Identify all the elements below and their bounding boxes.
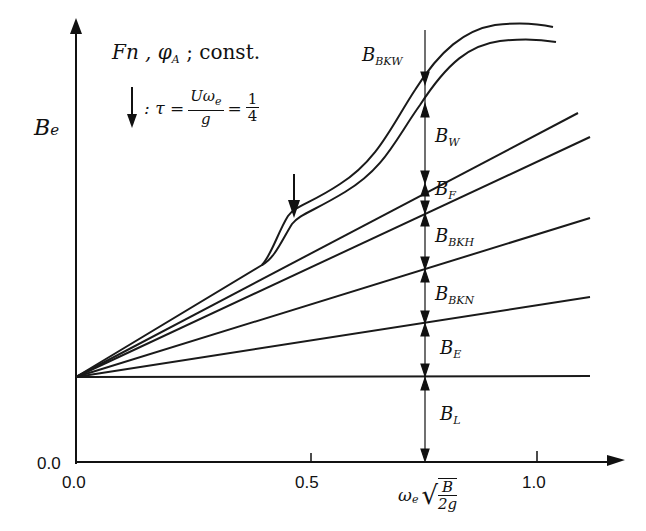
x-axis-arrow-icon	[607, 455, 625, 466]
x-tick-0: 0.0	[62, 473, 86, 493]
line-bl	[76, 376, 590, 377]
x-tick-05: 0.5	[295, 473, 319, 493]
frac-den: g	[188, 111, 223, 127]
line-bkh	[76, 137, 590, 377]
roll-damping-diagram	[0, 0, 646, 531]
component-lines	[76, 24, 590, 377]
label-bbkn: BBKN	[435, 283, 474, 307]
label-bl: BL	[440, 403, 461, 427]
y-origin-tick: 0.0	[37, 454, 61, 474]
title-fn-phi: Fn , φ	[112, 40, 172, 64]
legend-tau: : τ = Uωe g = 1 4	[144, 88, 259, 127]
title-const: ; const.	[180, 40, 260, 64]
x-tick-1: 1.0	[522, 473, 546, 493]
title-sub-a: A	[172, 53, 180, 66]
sqrt-icon: √	[421, 480, 438, 510]
label-be: BE	[440, 337, 461, 361]
label-bf: BF	[435, 178, 456, 202]
y-axis-label: Be	[34, 115, 59, 140]
y-label-sub: e	[50, 121, 59, 139]
sqrt-num: B	[438, 479, 457, 496]
legend-eq: =	[228, 98, 242, 118]
label-bbkh: BBKH	[435, 225, 474, 249]
y-axis-arrow-icon	[70, 18, 82, 34]
legend-value: 1 4	[246, 91, 260, 124]
x-label-fraction: B 2g	[438, 478, 457, 512]
legend-tau-prefix: : τ =	[144, 98, 184, 118]
title-condition: Fn , φA ; const.	[112, 40, 260, 66]
label-bw: BW	[435, 125, 460, 149]
frac-num: Uω	[190, 87, 215, 105]
label-bbkw: BBKW	[362, 44, 402, 68]
curve-bbkw	[262, 24, 553, 265]
x-axis-label: ωe √ B 2g	[398, 478, 457, 512]
legend-down-arrow-icon	[127, 114, 137, 128]
value-den: 4	[246, 108, 260, 124]
sqrt-den: 2g	[438, 496, 457, 512]
x-label-sub: e	[412, 493, 419, 506]
value-num: 1	[246, 91, 260, 108]
x-label-omega: ω	[398, 485, 412, 505]
frac-num-sub: e	[215, 95, 222, 108]
legend-fraction: Uωe g	[188, 88, 223, 127]
y-label-b: B	[34, 115, 50, 140]
